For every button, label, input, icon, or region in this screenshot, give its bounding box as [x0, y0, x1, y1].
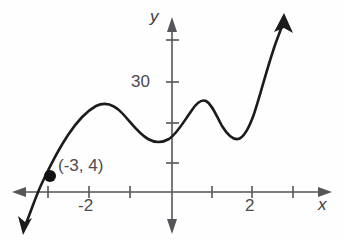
- y-tick-label-30: 30: [131, 73, 150, 90]
- curve-lower-arrow-icon: [18, 216, 32, 235]
- y-axis-up-arrow-icon: [167, 17, 177, 32]
- coordinate-plot: [0, 0, 345, 241]
- x-axis-left-arrow-icon: [12, 187, 26, 197]
- polynomial-curve: [25, 26, 282, 226]
- x-axis-label: x: [318, 196, 327, 213]
- marked-point-dot: [44, 170, 56, 182]
- curve-upper-arrow-icon: [274, 13, 293, 33]
- marked-point-label: (-3, 4): [58, 157, 103, 174]
- y-axis-label: y: [150, 8, 159, 25]
- graph-figure: y x 30 -2 2 (-3, 4): [0, 0, 345, 241]
- x-tick-label-negative-2: -2: [78, 197, 93, 214]
- y-axis-down-arrow-icon: [167, 219, 177, 234]
- x-tick-label-2: 2: [245, 197, 254, 214]
